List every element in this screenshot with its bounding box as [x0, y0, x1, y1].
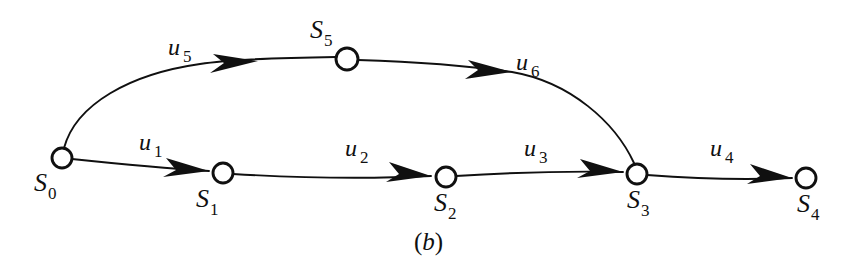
node-label-s0-base: S [34, 168, 47, 197]
graph-canvas [0, 0, 863, 265]
edge-label-u1-base: u [139, 129, 151, 155]
edge-label-u5: u5 [168, 35, 189, 59]
node-circle-s0 [52, 148, 72, 168]
node-circle-s4 [796, 168, 816, 188]
node-label-s3-base: S [627, 185, 640, 214]
arrowhead-u4 [747, 164, 792, 184]
node-label-s2-sub: 2 [448, 204, 457, 223]
edge-label-u5-sub: 5 [183, 47, 192, 66]
figure-caption-letter: b [422, 228, 435, 255]
node-label-s5-base: S [310, 15, 323, 44]
edge-label-u3-base: u [524, 135, 536, 161]
node-label-s5: S5 [310, 17, 332, 43]
node-label-s0: S0 [34, 170, 56, 196]
node-circle-s1 [213, 163, 233, 183]
arrowhead-u5 [210, 54, 258, 73]
edge-label-u4-base: u [710, 135, 722, 161]
edge-label-u1-sub: 1 [154, 142, 163, 161]
node-label-s3-sub: 3 [641, 201, 650, 220]
node-label-s5-sub: 5 [324, 31, 333, 50]
node-circle-s2 [436, 167, 456, 187]
edge-label-u4: u4 [710, 136, 731, 160]
node-label-s0-sub: 0 [48, 184, 57, 203]
node-label-s2-base: S [434, 188, 447, 217]
edge-label-u2-sub: 2 [360, 148, 369, 167]
figure-panel-b: S0 S1 S2 S3 S4 S5 u1 u2 u3 u4 u5 u6 (b) [0, 0, 863, 265]
edge-path-u6 [358, 60, 634, 163]
node-label-s4-base: S [797, 189, 810, 218]
edge-label-u3: u3 [524, 136, 545, 160]
arrowhead-u6 [465, 60, 512, 79]
node-label-s4-sub: 4 [811, 205, 820, 224]
edge-label-u6-sub: 6 [531, 62, 540, 81]
edge-label-u6-base: u [516, 49, 528, 75]
node-circle-s3 [627, 164, 647, 184]
node-label-s4: S4 [797, 191, 819, 217]
figure-caption: (b) [414, 228, 443, 256]
edge-label-u4-sub: 4 [725, 148, 734, 167]
edge-label-u2: u2 [345, 136, 366, 160]
arrowhead-u3 [577, 159, 623, 178]
edge-label-u6: u6 [516, 50, 537, 74]
arrowhead-u2 [386, 162, 431, 182]
node-label-s1: S1 [196, 186, 218, 212]
edge-label-u3-sub: 3 [539, 148, 548, 167]
node-circle-s5 [336, 48, 358, 70]
edge-label-u5-base: u [168, 34, 180, 60]
node-label-s3: S3 [627, 187, 649, 213]
edge-label-u2-base: u [345, 135, 357, 161]
node-label-s2: S2 [434, 190, 456, 216]
edge-path-u5 [64, 57, 336, 148]
edge-label-u1: u1 [139, 130, 160, 154]
figure-caption-close: ) [435, 228, 443, 255]
node-label-s1-sub: 1 [210, 200, 219, 219]
node-label-s1-base: S [196, 184, 209, 213]
